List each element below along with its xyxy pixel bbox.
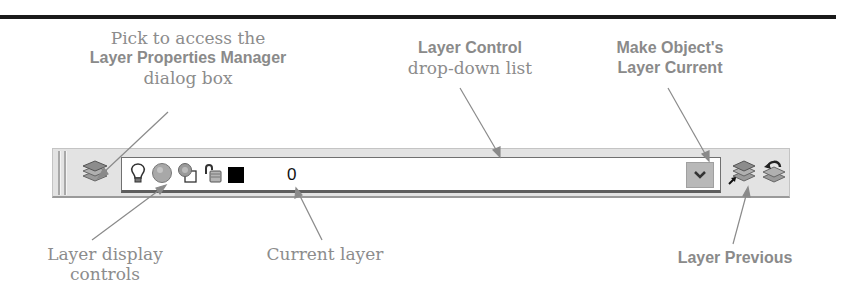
make-objects-layer-current-button[interactable] xyxy=(725,155,759,191)
layer-stack-arrow-icon xyxy=(727,156,757,190)
color-swatch xyxy=(228,167,244,183)
callout-text-bold: Layer Control xyxy=(370,38,570,58)
toolbar-grip[interactable] xyxy=(64,151,67,195)
callout-text: controls xyxy=(30,264,180,284)
layer-previous-button[interactable] xyxy=(761,155,787,191)
chevron-down-icon xyxy=(693,166,707,184)
layer-dropdown-arrow-button[interactable] xyxy=(686,162,714,188)
layer-color-swatch[interactable] xyxy=(226,162,246,188)
callout-layer-properties: Pick to access the Layer Properties Mana… xyxy=(38,28,338,88)
callout-text: Layer display xyxy=(30,244,180,264)
layer-freeze-all-viewports-toggle[interactable] xyxy=(150,162,174,188)
layer-on-off-toggle[interactable] xyxy=(128,162,148,188)
top-rule xyxy=(0,15,836,19)
callout-text-bold: Layer Previous xyxy=(640,248,830,268)
callout-make-current: Make Object's Layer Current xyxy=(590,38,750,78)
callout-layer-control: Layer Control drop-down list xyxy=(370,38,570,78)
viewport-sun-icon xyxy=(177,162,199,188)
layer-previous-icon xyxy=(760,156,788,190)
callout-text: drop-down list xyxy=(370,58,570,78)
callout-text: Pick to access the xyxy=(38,28,338,48)
layers-toolbar: 0 xyxy=(52,148,790,198)
layer-freeze-current-viewport-toggle[interactable] xyxy=(176,162,200,188)
callout-text: dialog box xyxy=(38,68,338,88)
callout-text-bold: Layer Current xyxy=(590,58,750,78)
current-layer-name: 0 xyxy=(287,165,296,185)
callout-current-layer: Current layer xyxy=(235,244,415,264)
lightbulb-icon xyxy=(130,162,146,188)
padlock-icon xyxy=(203,162,223,188)
toolbar-grip[interactable] xyxy=(58,151,61,195)
sun-icon xyxy=(151,162,173,188)
layer-stack-icon xyxy=(80,158,110,188)
layer-properties-manager-button[interactable] xyxy=(75,153,115,193)
callout-display-controls: Layer display controls xyxy=(30,244,180,284)
callout-text-bold: Make Object's xyxy=(590,38,750,58)
callout-text: Current layer xyxy=(235,244,415,264)
callout-layer-previous: Layer Previous xyxy=(640,248,830,268)
layer-control-dropdown[interactable]: 0 xyxy=(121,157,721,193)
callout-text-bold: Layer Properties Manager xyxy=(38,48,338,68)
layer-lock-toggle[interactable] xyxy=(202,162,224,188)
